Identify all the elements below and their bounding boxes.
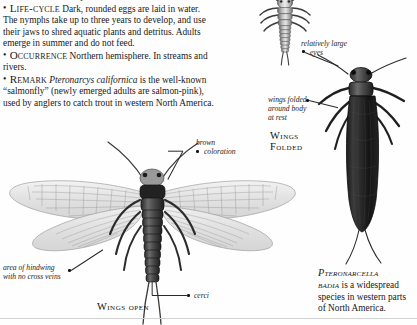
annotation-area-of-hindwing: area of hindwing with no cross veins: [3, 264, 61, 282]
bullet-remark: •: [3, 73, 7, 84]
life-cycle-entry: • Life-cycle Dark, rounded eggs are laid…: [3, 3, 215, 50]
annotation-eyes-line1: relatively large: [301, 40, 347, 49]
stonefly-wings-open-svg: [6, 140, 298, 325]
stonefly-wings-open-illustration: [6, 140, 298, 325]
thorax-abdomen-line: thorax and abdomen.: [318, 0, 417, 3]
annotation-cerci: cerci: [194, 292, 209, 301]
caption-species: badia: [318, 279, 339, 290]
annotation-brown-dot: [196, 150, 199, 153]
bullet-occurrence: •: [3, 49, 7, 60]
caption-species-line2: badia is a widespread species in western…: [318, 279, 416, 314]
stonefly-wings-folded-svg: [316, 52, 417, 267]
annotation-folded-line3: at rest: [268, 114, 307, 123]
caption-species-line1: Pteronarcella: [318, 267, 416, 279]
wings-folded-title-line1: Wings: [270, 130, 314, 141]
species-name-pteronarcys: Pteronarcys californica: [49, 75, 137, 85]
caption-genus: Pteronarcella: [318, 267, 379, 278]
field-guide-page: flies are active mostly after dark. • Li…: [0, 0, 417, 325]
bullet-life-cycle: •: [3, 2, 7, 13]
annotation-brown-line2: coloration: [196, 148, 236, 157]
annotation-brown-leader: [168, 151, 183, 152]
heading-remark: Remark: [10, 73, 47, 85]
annotation-cerci-leader-vertical: [152, 282, 153, 296]
bottom-right-caption: Pteronarcella badia is a widespread spec…: [318, 267, 416, 315]
remark-entry: • Remark Pteronarcys californica is the …: [3, 74, 215, 110]
wings-folded-title-line2: Folded: [270, 141, 314, 152]
occurrence-entry: • Occurrence Northern hemisphere. In str…: [3, 50, 215, 74]
annotation-brown-coloration: brown coloration: [196, 139, 236, 157]
annotation-wings-folded-at-rest: wings folded around body at rest: [268, 96, 307, 122]
heading-occurrence: Occurrence: [10, 49, 68, 61]
annotation-relatively-large-eyes: relatively large eyes: [301, 40, 347, 58]
annotation-hindwing-line2: with no cross veins: [3, 273, 61, 282]
right-text-column: thorax and abdomen.: [318, 0, 417, 3]
body-text-column: flies are active mostly after dark. • Li…: [3, 0, 215, 109]
page-bottom-rule: [0, 318, 417, 319]
stonefly-wings-folded-illustration: [316, 52, 417, 267]
heading-life-cycle: Life-cycle: [10, 2, 60, 14]
figure-title-wings-open: Wings open: [78, 301, 168, 312]
annotation-cerci-leader: [152, 295, 188, 296]
figure-title-wings-folded: Wings Folded: [270, 130, 314, 153]
